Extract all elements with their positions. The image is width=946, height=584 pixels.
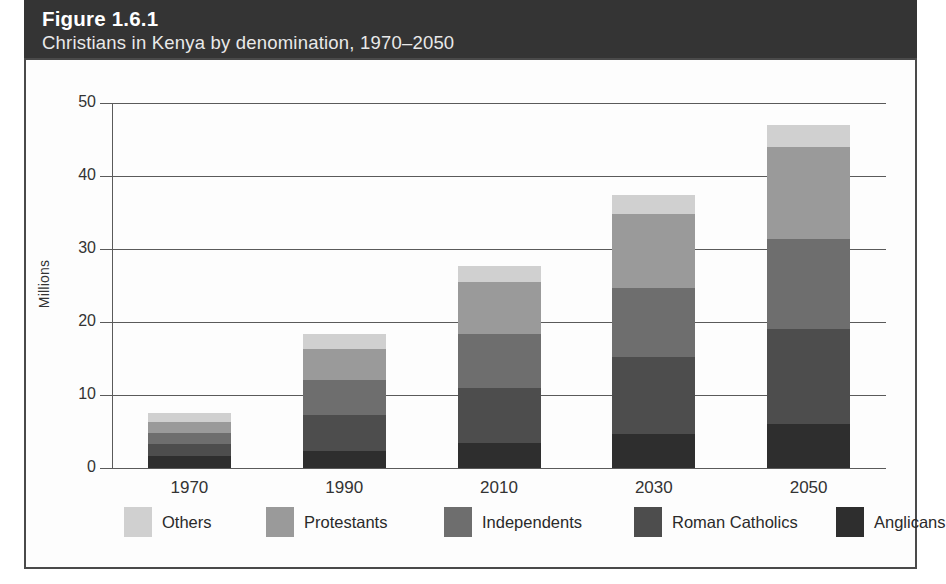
- x-axis-label-2030: 2030: [589, 478, 719, 498]
- legend-label: Others: [162, 513, 212, 532]
- bar-segment-1990-independents[interactable]: [303, 380, 386, 414]
- y-tick-label-40: 40: [26, 167, 96, 183]
- bar-segment-2010-independents[interactable]: [458, 334, 541, 387]
- figure-container: Figure 1.6.1 Christians in Kenya by deno…: [24, 0, 917, 569]
- y-tick-label-30: 30: [26, 240, 96, 256]
- legend-label: Roman Catholics: [672, 513, 798, 532]
- y-tick-40: [100, 176, 112, 177]
- bar-segment-1970-roman-catholics[interactable]: [148, 444, 231, 456]
- figure-header-band: Figure 1.6.1 Christians in Kenya by deno…: [24, 0, 917, 58]
- bar-segment-1990-others[interactable]: [303, 334, 386, 349]
- x-axis-label-2010: 2010: [434, 478, 564, 498]
- legend-swatch-others: [124, 507, 152, 537]
- bar-segment-1970-independents[interactable]: [148, 433, 231, 444]
- bar-segment-2010-others[interactable]: [458, 266, 541, 282]
- chart-legend: OthersProtestantsIndependentsRoman Catho…: [46, 506, 896, 546]
- y-tick-label-50: 50: [26, 94, 96, 110]
- bar-segment-1970-others[interactable]: [148, 413, 231, 422]
- legend-swatch-roman-catholics: [634, 507, 662, 537]
- x-axis-label-1990: 1990: [279, 478, 409, 498]
- gridline-0: [112, 468, 886, 469]
- y-tick-20: [100, 322, 112, 323]
- y-tick-0: [100, 468, 112, 469]
- bar-segment-2030-independents[interactable]: [612, 288, 695, 357]
- y-axis-title: Millions: [36, 244, 52, 324]
- bar-segment-2050-anglicans[interactable]: [767, 424, 850, 468]
- y-axis-line: [112, 103, 113, 468]
- legend-item-anglicans[interactable]: Anglicans: [836, 506, 946, 538]
- bar-segment-2030-roman-catholics[interactable]: [612, 357, 695, 434]
- y-tick-label-text: 0: [30, 459, 96, 475]
- bar-segment-2050-others[interactable]: [767, 125, 850, 147]
- bar-segment-2050-roman-catholics[interactable]: [767, 329, 850, 424]
- bar-2050[interactable]: [767, 125, 850, 468]
- figure-subtitle: Christians in Kenya by denomination, 197…: [42, 31, 917, 55]
- y-tick-label-text: 50: [30, 94, 96, 110]
- bar-segment-1990-anglicans[interactable]: [303, 451, 386, 468]
- bar-segment-2050-protestants[interactable]: [767, 147, 850, 239]
- y-tick-label-text: 10: [30, 386, 96, 402]
- x-axis-label-2050: 2050: [744, 478, 874, 498]
- y-tick-label-20: 20: [26, 313, 96, 329]
- legend-swatch-protestants: [266, 507, 294, 537]
- bar-segment-2030-others[interactable]: [612, 195, 695, 214]
- bar-2030[interactable]: [612, 195, 695, 468]
- legend-item-others[interactable]: Others: [124, 506, 212, 538]
- bar-2010[interactable]: [458, 266, 541, 468]
- chart-panel: Millions 01020304050 1970199020102030205…: [24, 58, 917, 569]
- figure-number: Figure 1.6.1: [42, 7, 917, 31]
- x-axis-label-1970: 1970: [124, 478, 254, 498]
- bar-segment-2030-protestants[interactable]: [612, 214, 695, 288]
- bar-1970[interactable]: [148, 413, 231, 468]
- legend-swatch-independents: [444, 507, 472, 537]
- legend-item-roman-catholics[interactable]: Roman Catholics: [634, 506, 798, 538]
- bar-segment-1990-roman-catholics[interactable]: [303, 415, 386, 452]
- y-tick-50: [100, 103, 112, 104]
- y-tick-label-text: 20: [30, 313, 96, 329]
- legend-swatch-anglicans: [836, 507, 864, 537]
- y-tick-label-0: 0: [26, 459, 96, 475]
- legend-label: Independents: [482, 513, 582, 532]
- bar-segment-2030-anglicans[interactable]: [612, 434, 695, 468]
- bar-segment-2010-protestants[interactable]: [458, 282, 541, 335]
- legend-item-independents[interactable]: Independents: [444, 506, 582, 538]
- legend-item-protestants[interactable]: Protestants: [266, 506, 387, 538]
- y-tick-10: [100, 395, 112, 396]
- legend-label: Protestants: [304, 513, 387, 532]
- legend-label: Anglicans: [874, 513, 946, 532]
- y-tick-label-text: 40: [30, 167, 96, 183]
- bar-segment-1970-anglicans[interactable]: [148, 456, 231, 468]
- bar-segment-1970-protestants[interactable]: [148, 422, 231, 433]
- y-tick-label-10: 10: [26, 386, 96, 402]
- bar-segment-2010-roman-catholics[interactable]: [458, 388, 541, 443]
- gridline-50: [112, 103, 886, 104]
- bar-segment-2050-independents[interactable]: [767, 239, 850, 330]
- bar-segment-2010-anglicans[interactable]: [458, 443, 541, 468]
- plot-area: Millions 01020304050 1970199020102030205…: [26, 60, 915, 567]
- y-tick-30: [100, 249, 112, 250]
- bar-1990[interactable]: [303, 334, 386, 468]
- bar-segment-1990-protestants[interactable]: [303, 349, 386, 380]
- y-tick-label-text: 30: [30, 240, 96, 256]
